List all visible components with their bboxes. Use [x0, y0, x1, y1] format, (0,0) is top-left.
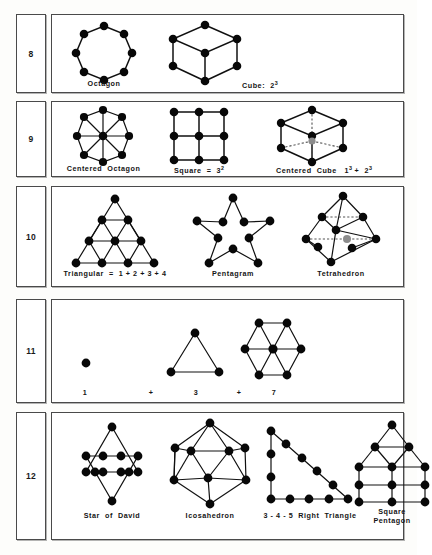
figure-square — [168, 107, 230, 165]
row-panel-12: Star of David — [51, 412, 404, 540]
row-panel-8: Octagon — [51, 14, 404, 93]
figure-star-of-david — [74, 421, 150, 507]
caption-star-of-david: Star of David — [60, 511, 164, 520]
caption-square: Square = 32 — [159, 164, 239, 175]
figure-triangular — [70, 193, 160, 269]
caption-square-pentagon: SquarePentagon — [352, 507, 432, 525]
caption-cube: Cube: 23 — [242, 79, 312, 90]
figure-octagon — [71, 21, 137, 85]
row-number-box-12: 12 — [16, 412, 46, 540]
figure-tetrahedron — [300, 191, 382, 269]
caption-icosahedron: Icosahedron — [170, 511, 250, 520]
figure-centered-octagon — [70, 105, 136, 167]
figure-pentagram — [192, 193, 274, 269]
caption-plus-2: + — [230, 388, 248, 397]
row-number-label: 9 — [28, 134, 33, 144]
caption-plus-1: + — [142, 388, 160, 397]
row-10: 10 — [16, 186, 404, 287]
row-panel-11: 1 + 3 + — [51, 299, 404, 403]
figure-icosahedron — [167, 418, 253, 510]
caption-tetrahedron: Tetrahedron — [300, 269, 382, 278]
figure-single-point — [79, 356, 93, 370]
row-number-box-8: 8 — [16, 14, 46, 93]
row-8: 8 Octago — [16, 14, 404, 93]
figure-right-triangle-345 — [264, 425, 354, 505]
row-9: 9 — [16, 101, 404, 177]
row-number-label: 8 — [28, 49, 33, 59]
row-12: 12 — [16, 412, 404, 540]
figure-triangle-3 — [164, 327, 226, 379]
row-number-box-11: 11 — [16, 299, 46, 403]
row-number-label: 12 — [26, 471, 36, 481]
row-panel-10: Triangular = 1 + 2 + 3 + 4 — [51, 186, 404, 287]
row-number-box-9: 9 — [16, 101, 46, 177]
caption-one: 1 — [70, 388, 100, 397]
caption-centered-octagon: Centered Octagon — [57, 164, 150, 173]
figure-centered-hexagon-7 — [237, 317, 309, 383]
row-11: 11 1 + — [16, 299, 404, 403]
caption-pentagram: Pentagram — [197, 269, 269, 278]
caption-triangular: Triangular = 1 + 2 + 3 + 4 — [50, 269, 180, 278]
row-number-box-10: 10 — [16, 186, 46, 287]
caption-seven: 7 — [263, 388, 285, 397]
caption-octagon: Octagon — [74, 79, 134, 88]
caption-centered-cube: Centered Cube 13 + 23 — [259, 164, 389, 175]
caption-three: 3 — [185, 388, 207, 397]
row-number-label: 10 — [26, 232, 36, 242]
row-panel-9: Centered Octagon Square — [51, 101, 404, 177]
row-number-label: 11 — [26, 346, 36, 356]
figure-centered-cube — [273, 105, 351, 167]
figure-cube — [165, 19, 245, 87]
figure-square-pentagon — [357, 419, 427, 507]
